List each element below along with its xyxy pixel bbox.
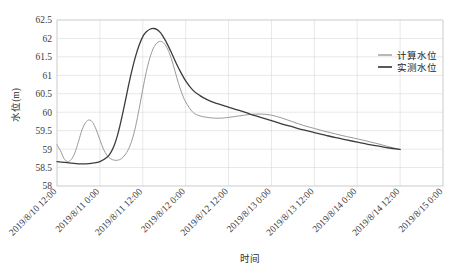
x-tick-label: 2019/8/15 0:00 [396,186,444,234]
x-tick-label: 2019/8/14 0:00 [311,186,359,234]
y-tick-label: 60.5 [35,89,52,99]
y-tick-label: 59.5 [35,126,52,136]
figure-caption [0,272,472,279]
plot-gridlines [57,20,443,186]
legend: 计算水位实测水位 [378,50,437,73]
x-tick-label: 2019/8/11 0:00 [54,186,102,234]
y-axis-title: 水位(m) [10,88,22,122]
y-tick-label: 61.5 [35,52,52,62]
y-tick-label: 61 [43,71,53,81]
x-axis-title: 时间 [240,253,260,264]
y-tick-label: 59 [43,145,53,155]
plot-border [57,20,443,186]
x-axis-tick-labels: 2019/8/10 12:002019/8/11 0:002019/8/11 1… [7,186,444,237]
y-axis-tick-labels: 62.56261.56160.56059.55958.558 [35,15,52,191]
x-tick-label: 2019/8/10 12:00 [7,186,58,237]
legend-item-label: 实测水位 [397,62,437,73]
x-tick-label: 2019/8/12 0:00 [139,186,187,234]
water-level-chart: 62.56261.56160.56059.55958.558 2019/8/10… [0,0,472,279]
x-tick-label: 2019/8/13 0:00 [225,186,273,234]
legend-item-label: 计算水位 [397,50,437,61]
y-tick-label: 62.5 [35,15,52,25]
y-tick-label: 60 [43,108,53,118]
y-tick-label: 58.5 [35,163,52,173]
y-tick-label: 62 [43,34,53,44]
